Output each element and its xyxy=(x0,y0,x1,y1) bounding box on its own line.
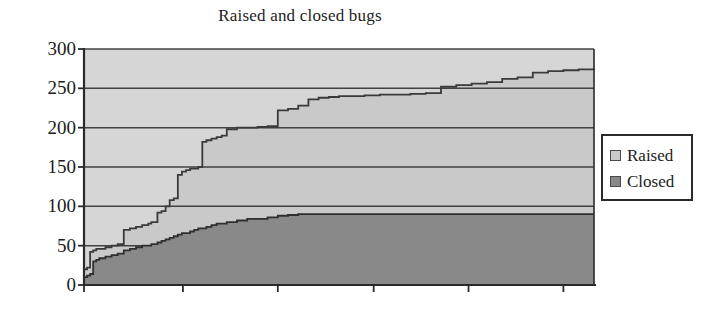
legend-label: Raised xyxy=(627,147,673,164)
legend-item-closed[interactable]: Closed xyxy=(610,168,691,194)
chart-legend: RaisedClosed xyxy=(601,134,693,201)
legend-label: Closed xyxy=(627,173,674,190)
legend-swatch-icon-closed xyxy=(610,176,621,187)
legend-item-raised[interactable]: Raised xyxy=(610,142,691,168)
legend-swatch-icon-raised xyxy=(610,150,621,161)
chart-figure: Raised and closed bugs 05010015020025030… xyxy=(0,0,724,313)
